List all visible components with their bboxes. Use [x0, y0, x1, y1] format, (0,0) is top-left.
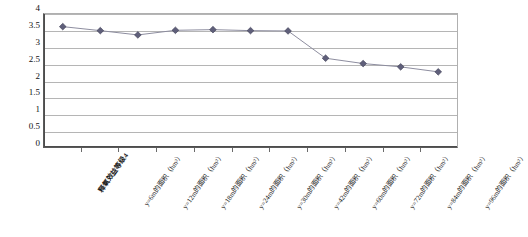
- data-point[interactable]: [397, 64, 404, 71]
- y-tick-label: 3: [36, 37, 41, 46]
- x-axis-label: y=60m的面积（hm²）: [370, 152, 414, 211]
- data-point[interactable]: [134, 32, 141, 39]
- data-point[interactable]: [59, 23, 66, 30]
- y-tick-label: 2: [36, 71, 41, 80]
- x-axis-label: y=30m的面积（hm²）: [295, 152, 339, 211]
- y-tick-label: 1: [36, 105, 41, 114]
- x-axis-label: y=6m的面积（hm²）: [142, 152, 184, 208]
- y-tick-label: 1.5: [29, 88, 40, 97]
- x-axis-label: y=84m的面积（hm²）: [446, 152, 490, 211]
- y-axis: 4 3.5 3 2.5 2 1.5 1 0.5 0: [14, 8, 40, 148]
- data-point[interactable]: [97, 27, 104, 34]
- plot-area: [43, 13, 458, 148]
- data-point[interactable]: [210, 26, 217, 33]
- y-tick-label: 0.5: [29, 122, 40, 131]
- x-axis-label: y=12m的面积（hm²）: [181, 152, 225, 211]
- data-point[interactable]: [322, 55, 329, 62]
- y-tick-label: 0: [36, 139, 41, 148]
- x-axis-label: 释氧效益等级4: [97, 152, 130, 194]
- data-point[interactable]: [360, 60, 367, 67]
- x-axis-labels: 释氧效益等级4y=6m的面积（hm²）y=12m的面积（hm²）y=18m的面积…: [0, 152, 471, 237]
- x-axis-label: y=72m的面积（hm²）: [408, 152, 452, 211]
- x-axis-label: y=24m的面积（hm²）: [257, 152, 301, 211]
- data-point[interactable]: [247, 27, 254, 34]
- data-point[interactable]: [285, 28, 292, 35]
- data-series: [44, 14, 457, 147]
- y-tick-label: 3.5: [29, 20, 40, 29]
- x-axis-label: y=42m的面积（hm²）: [332, 152, 376, 211]
- y-tick-label: 2.5: [29, 54, 40, 63]
- x-axis-label: y=96m的面积（hm²）: [483, 152, 527, 211]
- y-tick-label: 4: [36, 4, 41, 13]
- data-point[interactable]: [435, 69, 442, 76]
- data-point[interactable]: [172, 27, 179, 34]
- x-axis-label: y=18m的面积（hm²）: [219, 152, 263, 211]
